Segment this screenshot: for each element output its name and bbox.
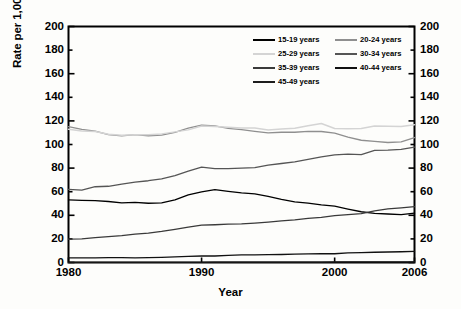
y-tick-label-left: 200 [22,20,64,32]
legend-swatch-line-icon [335,53,357,55]
legend-row: 15-19 years20-24 years [253,33,417,47]
chart-figure: Rate per 1,000 women in specified age gr… [0,0,461,309]
legend-swatch-line-icon [335,39,357,41]
legend-label: 20-24 years [360,36,401,44]
y-tick-label-right: 180 [420,43,460,55]
y-tick-label-right: 140 [420,90,460,102]
legend-row: 25-29 years30-34 years [253,47,417,61]
y-tick-label-left: 100 [22,138,64,150]
chart-legend: 15-19 years20-24 years25-29 years30-34 y… [253,33,417,89]
y-tick-label-left: 120 [22,114,64,126]
y-tick-label-right: 100 [420,138,460,150]
y-tick-label-left: 20 [22,232,64,244]
legend-item: 35-39 years [253,61,335,75]
y-tick-label-left: 80 [22,161,64,173]
y-tick-label-left: 160 [22,67,64,79]
legend-label: 25-29 years [278,50,319,58]
y-tick-label-right: 40 [420,208,460,220]
y-tick-label-right: 160 [420,67,460,79]
legend-label: 40-44 years [360,64,401,72]
data-series-group [69,124,415,263]
legend-item: 30-34 years [335,47,417,61]
legend-row: 45-49 years [253,75,417,89]
legend-item: 20-24 years [335,33,417,47]
y-axis-title: Rate per 1,000 women in specified age gr… [8,0,26,68]
x-tick-label: 1980 [39,266,99,278]
legend-swatch-line-icon [335,67,357,69]
y-tick-label-right: 200 [420,20,460,32]
series-line-30-34-years [69,147,415,190]
legend-swatch-line-icon [253,39,275,41]
legend-label: 45-49 years [278,78,319,86]
legend-label: 35-39 years [278,64,319,72]
legend-item: 40-44 years [335,61,417,75]
legend-swatch-line-icon [253,81,275,83]
x-tick-label: 2006 [385,266,445,278]
y-tick-label-left: 140 [22,90,64,102]
y-tick-label-left: 40 [22,208,64,220]
legend-label: 15-19 years [278,36,319,44]
y-tick-label-right: 20 [420,232,460,244]
legend-swatch-line-icon [253,67,275,69]
legend-item: 45-49 years [253,75,335,89]
legend-item: 15-19 years [253,33,335,47]
legend-item: 25-29 years [253,47,335,61]
x-tick-label: 2000 [305,266,365,278]
x-tick-label: 1990 [172,266,232,278]
y-tick-label-right: 120 [420,114,460,126]
series-line-15-19-years [69,190,415,215]
y-axis-title-container: Rate per 1,000 women in specified age gr… [2,24,22,264]
legend-row: 35-39 years40-44 years [253,61,417,75]
legend-swatch-line-icon [253,53,275,55]
y-tick-label-left: 180 [22,43,64,55]
y-tick-label-right: 80 [420,161,460,173]
y-tick-label-left: 60 [22,185,64,197]
y-tick-label-right: 60 [420,185,460,197]
series-line-40-44-years [69,251,415,257]
legend-label: 30-34 years [360,50,401,58]
x-axis-title: Year [0,286,461,298]
